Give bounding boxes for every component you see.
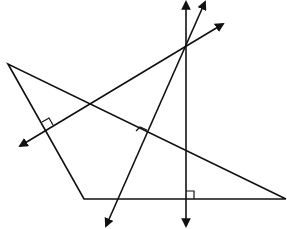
geometry-diagram	[0, 0, 287, 229]
right-angle-mark-left	[42, 118, 53, 125]
right-angle-mark-bottom	[186, 191, 194, 199]
bisector-long	[106, 2, 205, 226]
